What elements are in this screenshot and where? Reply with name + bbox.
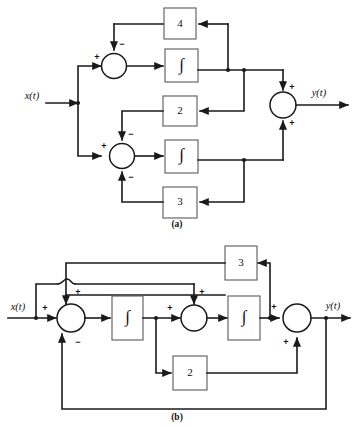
junction-a-top-tap-4 <box>226 68 230 72</box>
block-diagram-figure: x(t) + − 4 ∫ <box>0 0 354 427</box>
wire-a-tap-to-gain-2 <box>200 70 244 111</box>
summer-b-3-sign-left: + <box>271 302 276 312</box>
diagram-a-input-label: x(t) <box>24 90 40 102</box>
wire-a-input-to-top-summer <box>78 66 101 103</box>
diagram-b-output-label: y(t) <box>325 300 341 312</box>
summer-a-bottom-sign-bottom: − <box>128 172 133 182</box>
diagram-b: x(t) + + − ∫ <box>8 246 350 423</box>
summer-a-output-sign-top: + <box>289 82 294 92</box>
block-a-gain-2-label: 2 <box>177 104 183 116</box>
summer-a-top-sign-left: + <box>94 52 99 62</box>
summer-a-bottom-sign-top: − <box>128 129 133 139</box>
summer-b-1-sign-bottom: − <box>75 337 80 347</box>
summer-a-output-sign-bottom: + <box>289 118 294 128</box>
wire-b-tap-to-gain-2 <box>156 318 171 373</box>
summer-b-3 <box>283 304 311 332</box>
diagram-b-caption: (b) <box>171 412 183 423</box>
summer-a-output <box>270 92 296 118</box>
summer-b-3-sign-bottom: + <box>283 337 288 347</box>
diagram-a-caption: (a) <box>171 219 182 230</box>
block-b-gain-2-label: 2 <box>187 366 193 378</box>
wire-a-input-to-bottom-summer <box>78 103 101 156</box>
block-a-gain-3-label: 3 <box>177 195 183 207</box>
diagram-a-output-label: y(t) <box>311 87 327 99</box>
wire-a-tap-to-gain-3 <box>200 160 244 202</box>
block-a-gain-4-label: 4 <box>177 17 183 29</box>
summer-b-2-sign-top: + <box>199 287 204 297</box>
summer-a-bottom-sign-left: + <box>101 141 106 151</box>
summer-b-2-sign-left: + <box>167 303 172 313</box>
junction-b-input-split <box>34 316 38 320</box>
diagram-b-input-label: x(t) <box>10 301 26 313</box>
summer-b-1-sign-top: + <box>75 287 80 297</box>
block-b-gain-3-label: 3 <box>238 256 244 268</box>
summer-b-1-sign-left: + <box>42 303 47 313</box>
wire-b-hop-right <box>67 279 75 284</box>
summer-b-2 <box>181 305 207 331</box>
diagram-a: x(t) + − 4 ∫ <box>24 8 348 230</box>
summer-a-top-sign-top: − <box>119 39 124 49</box>
figure-root: x(t) + − 4 ∫ <box>0 0 354 427</box>
summer-b-1 <box>57 304 85 332</box>
summer-a-top <box>102 54 127 79</box>
summer-a-bottom <box>110 144 135 169</box>
